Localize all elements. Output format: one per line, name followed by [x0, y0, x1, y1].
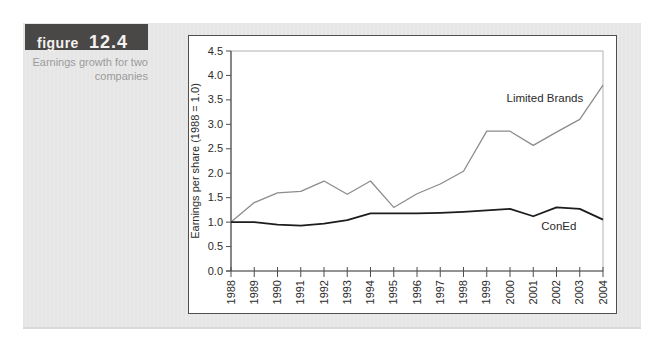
eps-line-chart: 0.00.51.01.52.02.53.03.54.04.51988198919…	[189, 36, 616, 313]
svg-text:2002: 2002	[550, 280, 562, 304]
svg-text:1.0: 1.0	[208, 216, 223, 228]
svg-text:1996: 1996	[411, 280, 423, 304]
figure-stage: figure 12.4 Earnings growth for two comp…	[0, 0, 659, 353]
svg-text:3.0: 3.0	[208, 118, 223, 130]
svg-text:0.5: 0.5	[208, 240, 223, 252]
svg-text:Limited Brands: Limited Brands	[507, 92, 584, 104]
svg-text:2.5: 2.5	[208, 142, 223, 154]
svg-text:2003: 2003	[573, 280, 585, 304]
svg-text:2.0: 2.0	[208, 167, 223, 179]
svg-text:1997: 1997	[434, 280, 446, 304]
svg-text:1999: 1999	[480, 280, 492, 304]
svg-text:1992: 1992	[318, 280, 330, 304]
chart-box: 0.00.51.01.52.02.53.03.54.04.51988198919…	[188, 35, 617, 314]
svg-text:1.5: 1.5	[208, 191, 223, 203]
svg-text:1993: 1993	[341, 280, 353, 304]
svg-text:2004: 2004	[597, 280, 609, 304]
svg-text:2000: 2000	[504, 280, 516, 304]
svg-text:ConEd: ConEd	[541, 220, 576, 232]
figure-tag-number: 12.4	[89, 32, 128, 53]
svg-text:2001: 2001	[527, 280, 539, 304]
svg-text:Earnings per share (1988 = 1.0: Earnings per share (1988 = 1.0)	[189, 83, 201, 239]
svg-text:3.5: 3.5	[208, 93, 223, 105]
figure-tag-word: figure	[37, 35, 79, 51]
svg-text:4.5: 4.5	[208, 45, 223, 57]
svg-text:1990: 1990	[271, 280, 283, 304]
svg-text:4.0: 4.0	[208, 69, 223, 81]
svg-text:1991: 1991	[294, 280, 306, 304]
svg-text:1988: 1988	[225, 280, 237, 304]
svg-text:1995: 1995	[387, 280, 399, 304]
svg-text:1994: 1994	[364, 280, 376, 304]
figure-caption-line1: Earnings growth for two	[15, 56, 148, 70]
figure-caption: Earnings growth for two companies	[15, 56, 148, 83]
svg-text:1998: 1998	[457, 280, 469, 304]
svg-text:1989: 1989	[248, 280, 260, 304]
figure-tag-row: figure 12.4	[37, 32, 128, 53]
svg-text:0.0: 0.0	[208, 265, 223, 277]
figure-caption-line2: companies	[15, 70, 148, 84]
figure-tag-box: figure 12.4	[25, 24, 148, 50]
